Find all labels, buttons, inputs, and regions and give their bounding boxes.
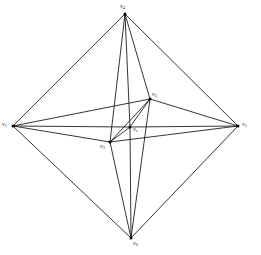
vertex-label-v3: v3 bbox=[100, 143, 105, 150]
edge-v4-v5 bbox=[125, 14, 238, 126]
vertex-subscript: 2 bbox=[155, 93, 157, 98]
graph-figure: v0v1v2v3v4v5vc bbox=[0, 0, 261, 255]
vertex-v4 bbox=[124, 13, 127, 16]
edge-v0-v3 bbox=[110, 142, 131, 238]
vertex-subscript: 3 bbox=[103, 145, 105, 150]
vertex-subscript: 4 bbox=[123, 5, 125, 10]
edge-v1-vc bbox=[13, 126, 130, 127]
vertex-label-v2: v2 bbox=[152, 91, 157, 98]
edge-v0-v5 bbox=[131, 126, 238, 238]
edge-v4-vc bbox=[125, 14, 130, 127]
edge-v0-v2 bbox=[131, 99, 150, 238]
vertex-v1 bbox=[12, 125, 15, 128]
vertex-v3 bbox=[109, 141, 112, 144]
vertex-subscript: 0 bbox=[136, 242, 138, 247]
vertex-label-v4: v4 bbox=[120, 3, 125, 10]
edge-layer bbox=[13, 14, 238, 238]
vertex-subscript: 5 bbox=[245, 123, 247, 128]
edge-v4-v1 bbox=[13, 14, 125, 126]
graph-canvas bbox=[0, 0, 261, 255]
vertex-label-v1: v1 bbox=[2, 121, 7, 128]
edge-v0-v1 bbox=[13, 126, 131, 238]
vertex-label-vc: vc bbox=[133, 126, 138, 133]
vertex-label-v0: v0 bbox=[133, 240, 138, 247]
vertex-label-v5: v5 bbox=[242, 121, 247, 128]
vertex-vc bbox=[129, 126, 132, 129]
vertex-subscript: 1 bbox=[5, 123, 7, 128]
edge-v0-vc bbox=[130, 127, 131, 238]
edge-v5-v3 bbox=[110, 126, 238, 142]
vertex-subscript: c bbox=[136, 128, 138, 133]
vertex-v5 bbox=[237, 125, 240, 128]
edge-v4-v3 bbox=[110, 14, 125, 142]
